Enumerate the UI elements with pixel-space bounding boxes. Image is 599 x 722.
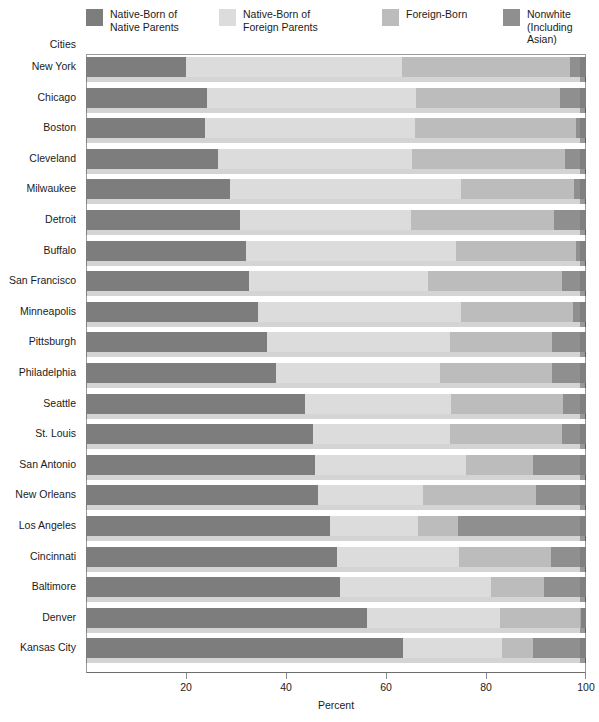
x-axis-tick-label: 60	[380, 681, 392, 693]
x-axis-tick-label: 40	[280, 681, 292, 693]
bar-row: Pittsburgh	[86, 332, 586, 358]
bar-row-label: Buffalo	[0, 244, 76, 256]
bar-end-cap	[580, 485, 586, 505]
x-axis-tick-label: 20	[180, 681, 192, 693]
bar-stack	[86, 363, 586, 389]
bar-segment-native_native	[86, 547, 337, 567]
bar-segment-native_native	[86, 608, 367, 628]
bar-segment-native_native	[86, 149, 218, 169]
x-axis-title: Percent	[86, 699, 586, 711]
bar-row-label: San Antonio	[0, 458, 76, 470]
bar-segment-foreign_born	[500, 608, 581, 628]
bar-row: Chicago	[86, 88, 586, 114]
bar-row: St. Louis	[86, 424, 586, 450]
bar-row-label: Cincinnati	[0, 550, 76, 562]
bar-segment-foreign_born	[440, 363, 552, 383]
bar-segment-foreign_born	[502, 638, 533, 658]
bar-row-label: San Francisco	[0, 274, 76, 286]
bar-segment-native_foreign	[240, 210, 411, 230]
bar-end-cap	[580, 608, 586, 628]
bar-segment-foreign_born	[402, 57, 570, 77]
bar-stack	[86, 179, 586, 205]
bar-segment-native_native	[86, 210, 240, 230]
bar-segment-foreign_born	[423, 485, 536, 505]
bar-segment-native_foreign	[318, 485, 423, 505]
x-axis-tick-label: 100	[577, 681, 595, 693]
bar-segment-native_foreign	[315, 455, 466, 475]
bar-stack	[86, 638, 586, 664]
y-axis-title: Cities	[0, 38, 76, 50]
bar-row: Baltimore	[86, 577, 586, 603]
x-axis-tick	[386, 673, 387, 679]
bar-segment-foreign_born	[456, 241, 576, 261]
bar-segment-native_native	[86, 394, 305, 414]
bar-end-cap	[580, 118, 586, 138]
bar-segment-native_foreign	[305, 394, 451, 414]
bar-row: Milwaukee	[86, 179, 586, 205]
bar-end-cap	[580, 332, 586, 352]
bar-segment-native_native	[86, 57, 186, 77]
bar-stack	[86, 271, 586, 297]
bar-segment-native_foreign	[207, 88, 416, 108]
bar-row-label: Milwaukee	[0, 182, 76, 194]
bar-segment-native_native	[86, 271, 249, 291]
bar-row-label: Boston	[0, 121, 76, 133]
bar-stack	[86, 394, 586, 420]
bar-segment-native_foreign	[246, 241, 456, 261]
bar-segment-native_foreign	[367, 608, 500, 628]
bar-stack	[86, 577, 586, 603]
bar-row: San Francisco	[86, 271, 586, 297]
bar-segment-foreign_born	[451, 394, 563, 414]
legend-item-foreign-born: Foreign-Born	[382, 8, 467, 26]
bar-row-label: Denver	[0, 611, 76, 623]
bar-segment-native_foreign	[340, 577, 491, 597]
legend-swatch-native-born-native-parents	[86, 9, 103, 26]
bar-segment-foreign_born	[450, 424, 562, 444]
bar-row-label: New York	[0, 60, 76, 72]
bar-row-label: Detroit	[0, 213, 76, 225]
bar-row-label: Los Angeles	[0, 519, 76, 531]
bar-segment-native_foreign	[276, 363, 440, 383]
bar-segment-native_native	[86, 485, 318, 505]
legend-label-nonwhite: Nonwhite (Including Asian)	[527, 8, 599, 46]
x-axis-tick	[585, 673, 586, 679]
bar-row-label: Minneapolis	[0, 305, 76, 317]
bar-stack	[86, 547, 586, 573]
bar-segment-nonwhite	[533, 455, 586, 475]
bar-end-cap	[580, 241, 586, 261]
bar-segment-nonwhite	[458, 516, 586, 536]
bar-segment-nonwhite	[533, 638, 586, 658]
bar-row-label: Pittsburgh	[0, 335, 76, 347]
legend-item-native-born-foreign-parents: Native-Born of Foreign Parents	[219, 8, 318, 33]
bar-segment-native_native	[86, 118, 205, 138]
bar-end-cap	[580, 424, 586, 444]
bar-row: Buffalo	[86, 241, 586, 267]
bar-segment-native_foreign	[249, 271, 428, 291]
bar-segment-foreign_born	[415, 118, 576, 138]
bar-stack	[86, 485, 586, 511]
bar-segment-foreign_born	[418, 516, 458, 536]
bar-end-cap	[580, 302, 586, 322]
x-axis-tick	[486, 673, 487, 679]
bar-segment-foreign_born	[459, 547, 551, 567]
bar-segment-native_foreign	[267, 332, 450, 352]
bar-row-label: St. Louis	[0, 427, 76, 439]
legend-item-native-born-native-parents: Native-Born of Native Parents	[86, 8, 179, 33]
bar-segment-native_foreign	[330, 516, 418, 536]
legend-item-nonwhite: Nonwhite (Including Asian)	[503, 8, 599, 46]
bar-row: Minneapolis	[86, 302, 586, 328]
bar-end-cap	[580, 455, 586, 475]
bar-stack	[86, 302, 586, 328]
bar-stack	[86, 332, 586, 358]
bar-segment-native_foreign	[337, 547, 459, 567]
bar-segment-native_native	[86, 88, 207, 108]
bar-segment-native_foreign	[230, 179, 461, 199]
bar-segment-foreign_born	[428, 271, 562, 291]
bar-end-cap	[580, 638, 586, 658]
bar-segment-native_native	[86, 577, 340, 597]
bar-end-cap	[580, 363, 586, 383]
legend-swatch-foreign-born	[382, 9, 399, 26]
x-axis: 20406080100 Percent	[86, 673, 586, 719]
bar-segment-native_native	[86, 455, 315, 475]
bar-segment-foreign_born	[416, 88, 560, 108]
